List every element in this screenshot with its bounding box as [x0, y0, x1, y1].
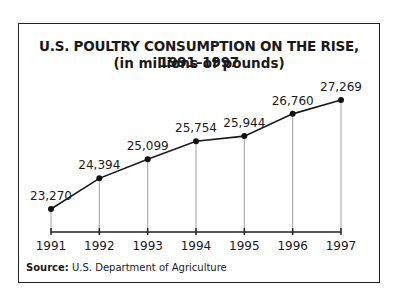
data-label: 27,269	[320, 80, 362, 94]
data-point	[338, 97, 344, 103]
data-label: 23,270	[30, 189, 72, 203]
data-point	[193, 138, 199, 144]
x-tick-label: 1993	[132, 239, 163, 253]
x-tick-label: 1996	[277, 239, 308, 253]
data-label: 24,394	[78, 158, 120, 172]
x-tick-label: 1994	[181, 239, 212, 253]
data-point	[290, 111, 296, 117]
source-text: U.S. Department of Agriculture	[69, 262, 227, 273]
data-label: 25,944	[223, 116, 265, 130]
data-point	[96, 175, 102, 181]
data-label: 25,754	[175, 121, 217, 135]
source-label: Source:	[26, 262, 69, 273]
line-chart: 199119921993199419951996199723,27024,394…	[0, 0, 396, 298]
data-label: 26,760	[272, 94, 314, 108]
data-point	[48, 206, 54, 212]
data-label: 25,099	[127, 139, 169, 153]
x-tick-label: 1992	[84, 239, 115, 253]
data-point	[145, 156, 151, 162]
x-tick-label: 1991	[36, 239, 67, 253]
x-tick-label: 1997	[326, 239, 357, 253]
x-tick-label: 1995	[229, 239, 260, 253]
source-note: Source: U.S. Department of Agriculture	[26, 262, 227, 273]
data-point	[241, 133, 247, 139]
